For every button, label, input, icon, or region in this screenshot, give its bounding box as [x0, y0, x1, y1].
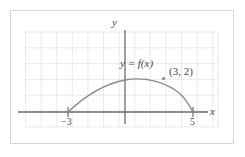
marked-point-3-2: [162, 77, 165, 80]
x-axis-label: x: [210, 106, 215, 117]
axes: [18, 30, 208, 124]
point-label: (3, 2): [169, 66, 193, 77]
x-tick-label-minus-3: −3: [61, 117, 72, 127]
y-axis-label: y: [112, 17, 117, 28]
grid-lines: [26, 32, 219, 127]
x-tick-label-5: 5: [190, 117, 195, 127]
curve-label: y = f(x): [120, 58, 153, 69]
plot-canvas: [0, 0, 245, 157]
figure-root: y x y = f(x) (3, 2) −3 5: [0, 0, 245, 157]
